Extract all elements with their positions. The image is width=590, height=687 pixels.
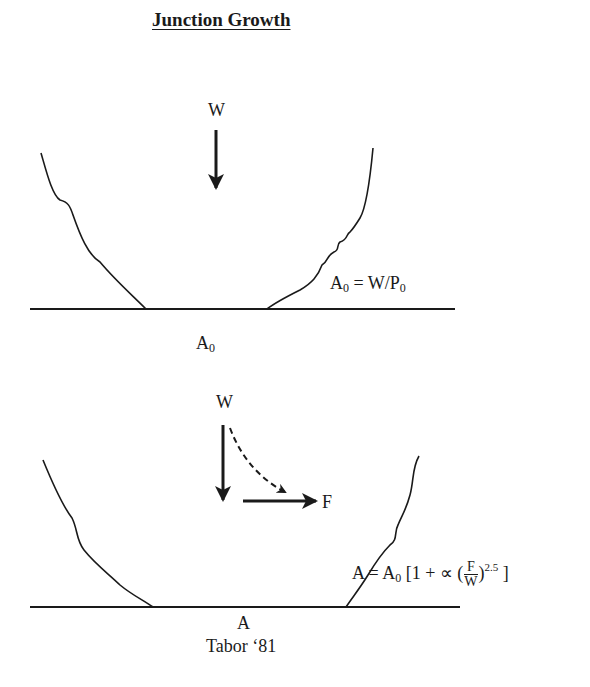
area-base: A — [196, 333, 209, 353]
bottom-left-asperity-profile — [43, 460, 153, 607]
force-label: F — [322, 492, 332, 513]
top-left-asperity-profile — [41, 153, 146, 309]
eq-fraction: FW — [464, 560, 477, 589]
eq-mid: = W/P — [349, 273, 400, 293]
eq-lhs-base: A — [330, 273, 343, 293]
area-sub: 0 — [209, 341, 215, 355]
bottom-load-label: W — [216, 392, 233, 413]
eq-bracket-close: ] — [498, 563, 509, 583]
bottom-contact-area-label: A — [237, 613, 250, 634]
top-load-label: W — [208, 100, 225, 121]
top-area-equation: A0 = W/P0 — [330, 273, 406, 296]
eq-rhs-sub: 0 — [400, 281, 406, 295]
bottom-area-equation: A = A0 [1 + ∝ (FW)2.5 ] — [352, 560, 509, 589]
citation: Tabor ‘81 — [206, 636, 276, 657]
resultant-dashed-arrow — [230, 428, 285, 492]
eq-lhs: A = A — [352, 563, 395, 583]
eq-frac-den: W — [464, 575, 477, 589]
eq-bracket-open: [1 + ∝ ( — [401, 563, 463, 583]
eq-frac-num: F — [464, 560, 477, 575]
eq-exponent: 2.5 — [485, 561, 499, 573]
top-contact-area-label: A0 — [196, 333, 215, 356]
